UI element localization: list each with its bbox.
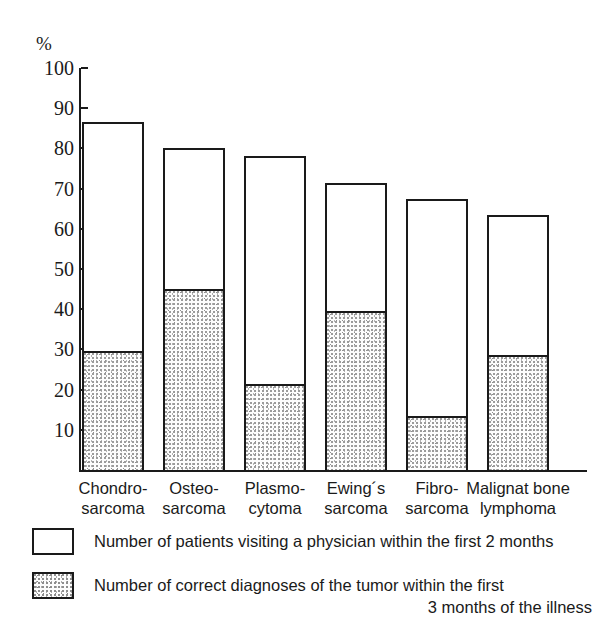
bar-diagnosed-segment bbox=[408, 416, 466, 470]
x-axis-label-line: Malignat bone bbox=[463, 478, 573, 498]
y-axis-tick-label: 80 bbox=[28, 138, 74, 158]
legend-label-line1: Number of patients visiting a physician … bbox=[94, 532, 553, 550]
bar-diagnosed-segment bbox=[246, 384, 304, 470]
y-axis-line bbox=[79, 68, 81, 472]
legend-label: Number of patients visiting a physician … bbox=[94, 530, 592, 552]
y-axis-tick-label: 70 bbox=[28, 179, 74, 199]
bar-diagnosed-segment bbox=[327, 311, 385, 470]
y-axis-tick-label: 50 bbox=[28, 259, 74, 279]
y-axis-tick-label: 100 bbox=[28, 58, 74, 78]
bar-diagnosed-segment bbox=[489, 355, 547, 470]
bar-diagnosed-segment bbox=[165, 289, 223, 470]
y-axis-tick bbox=[81, 67, 88, 69]
y-axis-tick bbox=[81, 107, 88, 109]
bar-total bbox=[487, 215, 549, 472]
legend-label-line1: Number of correct diagnoses of the tumor… bbox=[94, 576, 504, 594]
legend-label: Number of correct diagnoses of the tumor… bbox=[94, 574, 592, 618]
legend-label-line2: 3 months of the illness bbox=[94, 596, 592, 618]
y-axis-unit-label: % bbox=[36, 33, 52, 55]
y-axis-tick-label: 20 bbox=[28, 380, 74, 400]
bar-diagnosed-segment bbox=[84, 351, 142, 470]
bar-chart-figure: % 102030405060708090100 Chondro-sarcomaO… bbox=[0, 0, 608, 622]
bar-total bbox=[406, 199, 468, 472]
y-axis-tick-label: 40 bbox=[28, 299, 74, 319]
y-axis-tick-label: 60 bbox=[28, 219, 74, 239]
plot-area: % 102030405060708090100 Chondro-sarcomaO… bbox=[0, 0, 608, 500]
bar-total bbox=[82, 122, 144, 472]
legend-swatch-stippled-icon bbox=[32, 572, 74, 599]
y-axis-tick-label: 90 bbox=[28, 98, 74, 118]
bar-total bbox=[163, 148, 225, 472]
legend-swatch-white-icon bbox=[32, 528, 74, 555]
y-axis-tick-label: 30 bbox=[28, 339, 74, 359]
chart-legend: Number of patients visiting a physician … bbox=[0, 500, 608, 622]
y-axis-tick-label: 10 bbox=[28, 420, 74, 440]
bar-total bbox=[244, 156, 306, 472]
bar-total bbox=[325, 183, 387, 472]
